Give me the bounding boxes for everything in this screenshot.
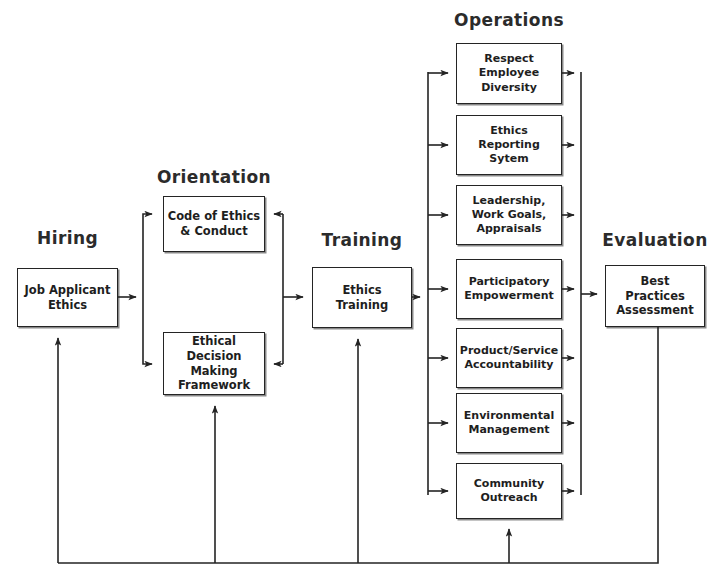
node-line: Work Goals, <box>472 208 546 222</box>
node-line: & Conduct <box>168 224 260 239</box>
heading-operations: Operations <box>446 10 572 30</box>
node-line: Framework <box>167 378 261 393</box>
node-line: Management <box>464 423 554 437</box>
node-ethics-training[interactable]: Ethics Training <box>312 267 412 328</box>
node-line: Employee <box>479 66 539 80</box>
node-line: Leadership, <box>472 194 546 208</box>
node-line: Accountability <box>460 358 558 372</box>
node-line: Diversity <box>479 81 539 95</box>
heading-hiring: Hiring <box>17 228 118 248</box>
node-community-outreach[interactable]: Community Outreach <box>456 463 562 519</box>
node-line: Training <box>336 298 389 313</box>
node-line: Appraisals <box>472 222 546 236</box>
node-line: Ethical Decision <box>167 334 261 363</box>
node-line: Product/Service <box>460 344 558 358</box>
node-job-applicant-ethics[interactable]: Job Applicant Ethics <box>17 268 118 327</box>
node-line: Assessment <box>609 303 701 318</box>
diagram-canvas: Hiring Orientation Training Operations E… <box>0 0 726 584</box>
node-line: Ethics <box>478 124 540 138</box>
node-line: Community <box>474 477 544 491</box>
node-line: Outreach <box>474 491 544 505</box>
node-line: Respect <box>479 52 539 66</box>
node-best-practices-assessment[interactable]: Best Practices Assessment <box>605 265 705 327</box>
node-product-service-accountability[interactable]: Product/Service Accountability <box>456 328 562 388</box>
node-environmental-management[interactable]: Environmental Management <box>456 393 562 453</box>
node-line: Environmental <box>464 409 554 423</box>
node-ethical-decision-framework[interactable]: Ethical Decision Making Framework <box>163 332 265 395</box>
node-ethics-reporting-sytem[interactable]: Ethics Reporting Sytem <box>456 115 562 175</box>
node-line: Participatory <box>464 275 553 289</box>
node-line: Job Applicant <box>25 283 111 298</box>
node-line: Making <box>167 364 261 379</box>
node-leadership-work-goals-appraisals[interactable]: Leadership, Work Goals, Appraisals <box>456 185 562 245</box>
node-line: Empowerment <box>464 289 553 303</box>
node-line: Reporting <box>478 138 540 152</box>
node-line: Ethics <box>25 298 111 313</box>
wire-bus-to-ethical-decision <box>143 297 152 364</box>
node-line: Sytem <box>478 152 540 166</box>
node-line: Code of Ethics <box>168 209 260 224</box>
heading-orientation: Orientation <box>143 167 285 187</box>
wire-bus-to-code-of-ethics <box>143 214 152 297</box>
node-line: Ethics <box>336 283 389 298</box>
node-code-of-ethics[interactable]: Code of Ethics & Conduct <box>163 196 265 252</box>
heading-training: Training <box>312 230 412 250</box>
heading-evaluation: Evaluation <box>600 230 710 250</box>
node-participatory-empowerment[interactable]: Participatory Empowerment <box>456 259 562 319</box>
node-line: Best Practices <box>609 274 701 303</box>
node-respect-employee-diversity[interactable]: Respect Employee Diversity <box>456 43 562 104</box>
